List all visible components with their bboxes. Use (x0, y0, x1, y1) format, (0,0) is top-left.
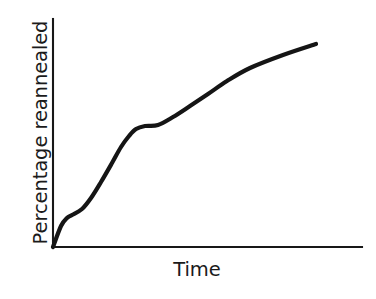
plot-area (0, 0, 376, 299)
chart-figure: Percentage reannealed Time (0, 0, 376, 299)
y-axis-label: Percentage reannealed (29, 17, 52, 249)
x-axis-label: Time (0, 258, 376, 281)
reannealing-curve (53, 44, 316, 247)
